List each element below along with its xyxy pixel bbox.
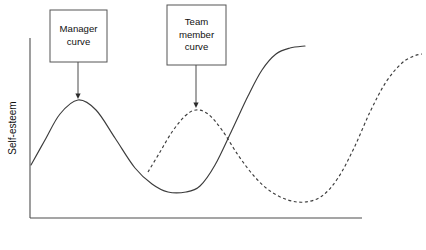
team-member-curve-line [148, 54, 422, 202]
team-member-curve-callout-text-line-0: Team [185, 16, 208, 27]
team-member-curve-callout-text-line-2: curve [185, 41, 208, 52]
self-esteem-curve-figure: Self-esteem ManagercurveTeammembercurve [0, 0, 426, 250]
curves-group [31, 46, 422, 202]
callouts-group: ManagercurveTeammembercurve [50, 5, 226, 108]
manager-curve-callout-arrow-icon [75, 94, 80, 100]
manager-curve-callout-text-line-1: curve [67, 36, 90, 47]
team-member-curve-callout-text-line-1: member [179, 29, 215, 40]
team-member-curve-callout-arrow-icon [193, 103, 198, 109]
chart-canvas: Self-esteem ManagercurveTeammembercurve [0, 0, 426, 250]
team-member-curve-callout[interactable]: Teammembercurve [167, 5, 226, 108]
manager-curve-callout-text-line-0: Manager [60, 23, 99, 34]
y-axis-label: Self-esteem [7, 101, 18, 154]
manager-curve-callout[interactable]: Managercurve [50, 10, 107, 99]
manager-curve-line [31, 46, 305, 193]
